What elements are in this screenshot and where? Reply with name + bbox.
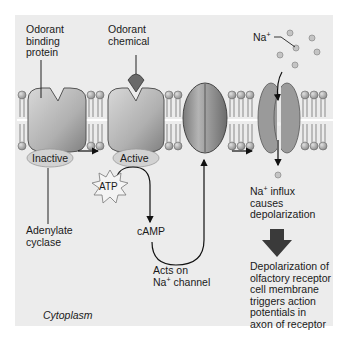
lipid-head [228,91,236,99]
sodium-ion [287,30,293,36]
label-cytoplasm: Cytoplasm [43,310,93,322]
lipid-tail [98,124,102,142]
label-adenylate-cyclase: Adenylate cyclase [26,225,73,248]
label-active: Active [120,153,149,165]
lipid-head [96,91,104,99]
lipid-tail [176,124,180,142]
lipid-head [319,142,327,150]
label-line: depolarization [250,209,315,221]
lipid-head [87,142,95,150]
odorant-receptor-active [108,88,164,152]
lipid-head [174,91,182,99]
label-line: potentials in [250,307,331,319]
label-odorant-chemical: Odorant chemical [108,24,149,47]
lipid-tail [98,99,102,117]
lipid-tail [239,99,243,117]
lipid-head [301,91,309,99]
lipid-head [319,91,327,99]
lipid-head [165,91,173,99]
lipid-tail [230,99,234,117]
label-line: Adenylate [26,225,73,237]
sodium-ion-in-pore [277,122,281,126]
label-inactive: Inactive [32,153,68,165]
lipid-tail [89,124,93,142]
lipid-tail [321,99,325,117]
lipid-head [96,142,104,150]
label-line: chemical [108,36,149,48]
label-line: Odorant [108,24,149,36]
lipid-head [87,91,95,99]
lipid-tail [89,99,93,117]
label-sodium-ion: Na+ [253,32,271,44]
sodium-ion [292,62,298,68]
label-line: cell membrane [250,284,331,296]
result-arrow [262,229,292,257]
odorant-binding-protein [28,88,86,152]
lipid-tail [303,124,307,142]
lipid-tail [20,124,24,142]
label-line: Odorant [26,24,64,36]
lipid-tail [230,124,234,142]
lipid-tail [321,124,325,142]
lipid-tail [167,124,171,142]
label-line: protein [26,47,64,59]
lipid-tail [248,99,252,117]
label-line: Na+ influx [250,186,315,198]
camp-to-channel-arrow [152,160,204,265]
label-na-influx: Na+ influx causes depolarization [250,186,315,221]
lipid-tail [312,99,316,117]
lipid-head [165,142,173,150]
label-depolarization-result: Depolarization of olfactory receptor cel… [250,261,331,330]
lipid-tail [303,99,307,117]
label-line: Na+ channel [153,277,210,289]
lipid-tail [312,124,316,142]
label-line: cyclase [26,237,73,249]
lipid-head [310,142,318,150]
lipid-head [301,142,309,150]
lipid-head [246,91,254,99]
sodium-ion [309,35,315,41]
influx-text: influx [268,185,295,197]
label-acts-on-channel: Acts on Na+ channel [153,265,210,288]
lipid-tail [239,124,243,142]
label-camp: cAMP [137,226,165,238]
sodium-ion [277,52,283,58]
lipid-head [228,142,236,150]
na-text: Na [253,31,266,43]
lipid-tail [176,99,180,117]
na-leader-line [274,37,295,47]
lipid-head [237,91,245,99]
sodium-ion-inside [275,172,281,178]
lipid-head [18,91,26,99]
label-line: axon of receptor [250,319,331,331]
na-text: Na [153,276,166,288]
channel-text: channel [171,276,211,288]
lipid-head [246,142,254,150]
label-atp: ATP [99,181,118,193]
na-text: Na [250,185,263,197]
lipid-head [237,142,245,150]
lipid-tail [20,99,24,117]
sodium-ion [314,49,320,55]
na-charge: + [266,31,270,38]
label-odorant-binding-protein: Odorant binding protein [26,24,64,59]
lipid-head [18,142,26,150]
lipid-head [310,91,318,99]
lipid-tail [248,124,252,142]
label-line: Depolarization of [250,261,331,273]
lipid-head [174,142,182,150]
lipid-tail [167,99,171,117]
